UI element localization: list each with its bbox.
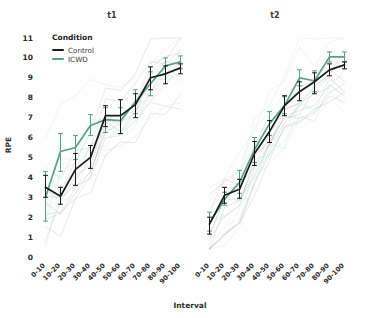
legend-title: Condition	[52, 33, 93, 42]
participant-trace	[210, 85, 345, 249]
participant-trace	[210, 91, 345, 220]
legend: Condition Control ICWD	[52, 33, 94, 64]
y-tick-label: 3	[28, 193, 33, 202]
participant-trace	[210, 70, 345, 195]
y-tick-label: 9	[28, 73, 33, 82]
y-tick-label: 0	[28, 253, 33, 262]
y-tick-label: 11	[23, 34, 33, 43]
y-axis: 01234567891011	[23, 34, 33, 262]
y-tick-label: 2	[28, 213, 33, 222]
participant-trace	[210, 83, 345, 249]
series-icwd-t1	[43, 56, 183, 221]
participant-trace	[46, 38, 181, 236]
y-tick-label: 4	[28, 173, 33, 182]
legend-label-control: Control	[68, 46, 94, 55]
y-tick-label: 5	[28, 153, 33, 162]
y-tick-label: 8	[28, 93, 33, 102]
y-axis-title: RPE	[4, 137, 13, 153]
mean-line	[46, 68, 181, 196]
rpe-interval-line-chart: t1 t2 01234567891011 RPE 0-1010-2020-303…	[0, 0, 380, 318]
x-axis: 0-1010-2020-3030-4040-5050-6060-7070-808…	[30, 261, 347, 285]
participant-trace	[210, 54, 345, 249]
participant-trace	[210, 93, 345, 250]
participant-trace	[46, 72, 181, 210]
legend-label-icwd: ICWD	[68, 55, 88, 64]
panel-title-t2: t2	[270, 11, 279, 20]
y-tick-label: 7	[28, 113, 33, 122]
participant-trace	[210, 85, 345, 237]
y-tick-label: 1	[28, 233, 33, 242]
participant-trace	[210, 69, 345, 234]
participant-trace	[46, 68, 181, 220]
y-tick-label: 10	[23, 53, 33, 62]
participant-trace	[46, 94, 181, 214]
panel-title-t1: t1	[107, 11, 117, 20]
participant-trace	[46, 65, 181, 220]
participant-trace	[210, 56, 345, 249]
participant-trace	[210, 38, 345, 188]
participant-trace	[210, 49, 345, 249]
mean-line	[210, 65, 345, 224]
y-tick-label: 6	[28, 133, 33, 142]
participant-trace	[46, 51, 181, 179]
participant-trace	[46, 74, 181, 241]
chart-figure: t1 t2 01234567891011 RPE 0-1010-2020-303…	[0, 0, 380, 318]
x-axis-title: Interval	[173, 301, 206, 310]
participant-trace	[46, 38, 181, 248]
data-series-group	[43, 52, 347, 234]
